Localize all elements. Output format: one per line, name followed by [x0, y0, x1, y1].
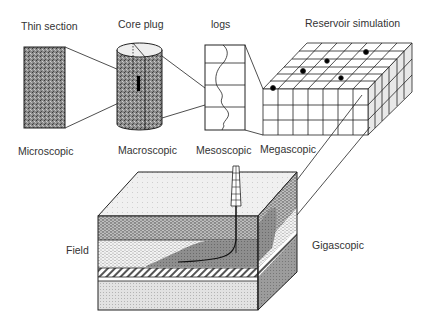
well-marker — [325, 59, 330, 64]
drilling-derrick-icon — [231, 166, 241, 206]
well-marker — [301, 69, 306, 74]
well-marker — [364, 50, 369, 55]
well-log-panel — [205, 45, 245, 130]
scale-hierarchy-diagram — [0, 0, 432, 327]
label-mesoscopic: Mesoscopic — [196, 144, 251, 156]
label-reservoir-simulation: Reservoir simulation — [305, 17, 400, 29]
label-macroscopic: Macroscopic — [118, 144, 177, 156]
reservoir-simulation-grid — [263, 43, 412, 135]
label-microscopic: Microscopic — [18, 145, 73, 157]
well-marker — [271, 86, 276, 91]
thin-section — [24, 47, 65, 128]
label-gigascopic: Gigascopic — [312, 239, 364, 251]
zoom-connector-core-to-logs — [162, 56, 205, 118]
well-marker — [339, 76, 344, 81]
label-field: Field — [66, 244, 89, 256]
core-plug — [117, 43, 162, 130]
field-geologic-block — [98, 166, 297, 310]
label-logs: logs — [211, 18, 230, 30]
label-thin-section: Thin section — [21, 20, 78, 32]
label-megascopic: Megascopic — [260, 143, 316, 155]
label-core-plug: Core plug — [118, 18, 164, 30]
zoom-connector-logs-to-grid — [245, 45, 263, 135]
